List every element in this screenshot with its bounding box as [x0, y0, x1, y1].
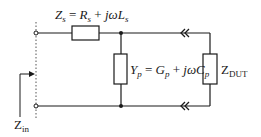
cp-symbol: jωC [183, 62, 204, 77]
terminal-bottom [34, 104, 38, 108]
zs-impedance-box [72, 26, 99, 40]
yp-admittance-box [114, 54, 127, 84]
terminal-top [34, 31, 38, 35]
circuit-diagram: Zs = Rs + jωLs Yp = Gp + jωCp ZDUT Zin [0, 0, 261, 137]
yp-equals: = [142, 62, 156, 77]
zin-subscript: in [22, 124, 29, 134]
zdut-symbol: Z [221, 62, 229, 77]
zin-arrow-line [20, 74, 31, 117]
yp-label: Yp = Gp + jωCp [130, 63, 209, 76]
zin-label: Zin [14, 118, 29, 131]
junction-top [119, 31, 123, 35]
zs-label: Zs = Rs + jωLs [55, 8, 128, 21]
rs-symbol: R [80, 7, 88, 22]
zdut-subscript: DUT [229, 69, 248, 79]
ls-symbol: jωL [105, 7, 125, 22]
zin-symbol: Z [14, 117, 22, 132]
zdut-label: ZDUT [221, 63, 247, 76]
junction-bottom [119, 104, 123, 108]
yp-plus: + [169, 62, 183, 77]
gp-symbol: G [156, 62, 165, 77]
cp-subscript: p [205, 69, 210, 79]
zs-equals: = [66, 7, 80, 22]
ls-subscript: s [125, 14, 129, 24]
zin-arrowhead-icon [29, 71, 35, 77]
zs-plus: + [91, 7, 105, 22]
